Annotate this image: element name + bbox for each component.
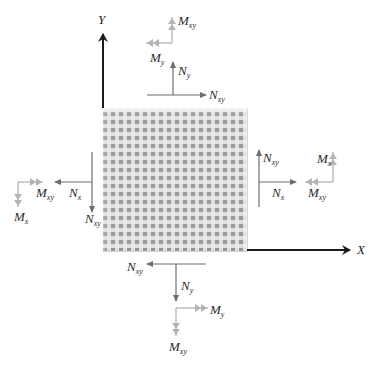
top-moment-xy-label: Mxy (178, 14, 196, 27)
bottom-force-xy-label: Nxy (127, 260, 143, 273)
right-force-x-label: Nx (272, 186, 284, 199)
x-axis-label: X (357, 243, 365, 256)
plate-force-diagram: Y X Mxy My Ny Nxy Mxy Mx Nx Nxy Nxy Nx M… (0, 0, 380, 366)
left-moment-xy-label: Mxy (36, 186, 54, 199)
right-moment-xy-label: Mxy (308, 186, 326, 199)
top-force-xy-label: Nxy (209, 88, 225, 101)
left-force-x-label: Nx (69, 186, 81, 199)
bottom-moment-y-label: My (210, 303, 224, 316)
top-force-y-label: Ny (178, 64, 190, 77)
bottom-force-y-label: Ny (181, 279, 193, 292)
bottom-moment-xy-label: Mxy (169, 340, 187, 353)
top-moment-y-label: My (150, 51, 164, 64)
arrows-layer (0, 0, 380, 366)
y-axis-label: Y (98, 13, 105, 26)
left-moment-x-label: Mx (14, 210, 28, 223)
right-force-xy-label: Nxy (263, 151, 279, 164)
left-force-xy-label: Nxy (85, 212, 101, 225)
right-moment-x-label: Mx (317, 152, 331, 165)
